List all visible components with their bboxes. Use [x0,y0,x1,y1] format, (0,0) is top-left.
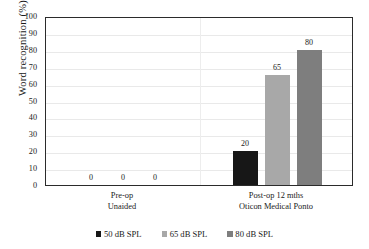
bar-value-label: 0 [143,174,168,182]
bar-value-label: 80 [297,39,322,47]
category-label-line: Unaided [45,201,199,212]
bar [265,75,290,185]
y-axis-tick: 100 [25,13,37,21]
legend-swatch-icon [96,231,102,237]
x-axis-category-label: Pre-opUnaided [45,190,199,212]
y-axis-tick: 60 [29,81,37,89]
legend-label: 65 dB SPL [170,229,208,239]
bar-value-label: 65 [265,64,290,72]
y-axis-tick: 70 [29,64,37,72]
x-axis-category-labels: Pre-opUnaidedPost-op 12 mthsOticon Medic… [45,190,353,216]
legend-item: 80 dB SPL [227,229,273,239]
legend-swatch-icon [227,231,233,237]
legend-label: 50 dB SPL [104,229,142,239]
bar [233,151,258,185]
bar-value-label: 0 [111,174,136,182]
y-axis-tick: 20 [29,148,37,156]
chart-legend: 50 dB SPL65 dB SPL80 dB SPL [0,226,369,242]
x-axis-category-label: Post-op 12 mthsOticon Medical Ponto [199,190,353,212]
y-axis-tick-labels: 1009080706050403020100 [0,17,41,186]
y-axis-tick: 30 [29,131,37,139]
legend-item: 50 dB SPL [96,229,142,239]
y-axis-tick: 80 [29,47,37,55]
category-label-line: Oticon Medical Ponto [199,201,353,212]
legend-swatch-icon [162,231,168,237]
category-label-line: Pre-op [45,190,199,201]
category-label-line: Post-op 12 mths [199,190,353,201]
bar-value-label: 0 [79,174,104,182]
y-axis-tick: 10 [29,165,37,173]
y-axis-tick: 90 [29,30,37,38]
legend-label: 80 dB SPL [235,229,273,239]
legend-item: 65 dB SPL [162,229,208,239]
plot-area: 000206580 [45,17,353,186]
bars-layer: 000206580 [46,18,352,185]
y-axis-tick: 50 [29,98,37,106]
y-axis-tick: 0 [33,182,37,190]
bar-value-label: 20 [233,140,258,148]
y-axis-tick: 40 [29,114,37,122]
bar [297,50,322,185]
word-recognition-bar-chart: Word recognition (%) 1009080706050403020… [0,0,369,249]
